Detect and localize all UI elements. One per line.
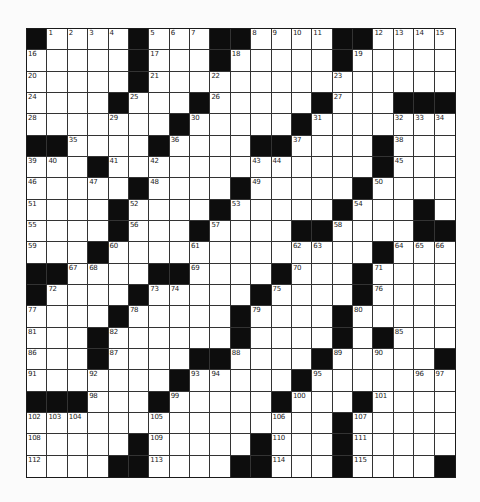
grid-cell[interactable] bbox=[190, 285, 210, 306]
grid-cell[interactable] bbox=[47, 114, 67, 135]
grid-cell[interactable] bbox=[149, 200, 169, 221]
grid-cell[interactable] bbox=[435, 306, 455, 327]
grid-cell[interactable] bbox=[129, 413, 149, 434]
grid-cell[interactable]: 65 bbox=[414, 242, 434, 263]
grid-cell[interactable]: 78 bbox=[129, 306, 149, 327]
grid-cell[interactable] bbox=[292, 157, 312, 178]
grid-cell[interactable]: 6 bbox=[170, 29, 190, 50]
grid-cell[interactable]: 32 bbox=[394, 114, 414, 135]
grid-cell[interactable] bbox=[272, 200, 292, 221]
grid-cell[interactable] bbox=[394, 200, 414, 221]
grid-cell[interactable] bbox=[272, 114, 292, 135]
grid-cell[interactable]: 16 bbox=[27, 50, 47, 71]
grid-cell[interactable] bbox=[272, 242, 292, 263]
grid-cell[interactable] bbox=[353, 370, 373, 391]
grid-cell[interactable] bbox=[170, 93, 190, 114]
grid-cell[interactable] bbox=[414, 349, 434, 370]
grid-cell[interactable]: 11 bbox=[312, 29, 332, 50]
grid-cell[interactable] bbox=[292, 93, 312, 114]
grid-cell[interactable] bbox=[312, 285, 332, 306]
grid-cell[interactable] bbox=[47, 456, 67, 477]
grid-cell[interactable]: 51 bbox=[27, 200, 47, 221]
grid-cell[interactable] bbox=[272, 370, 292, 391]
grid-cell[interactable] bbox=[353, 157, 373, 178]
grid-cell[interactable] bbox=[231, 392, 251, 413]
grid-cell[interactable] bbox=[149, 221, 169, 242]
grid-cell[interactable]: 74 bbox=[170, 285, 190, 306]
grid-cell[interactable] bbox=[190, 434, 210, 455]
grid-cell[interactable] bbox=[68, 434, 88, 455]
grid-cell[interactable] bbox=[231, 114, 251, 135]
grid-cell[interactable] bbox=[149, 328, 169, 349]
grid-cell[interactable]: 73 bbox=[149, 285, 169, 306]
grid-cell[interactable]: 18 bbox=[231, 50, 251, 71]
grid-cell[interactable] bbox=[231, 285, 251, 306]
grid-cell[interactable] bbox=[251, 72, 271, 93]
grid-cell[interactable] bbox=[373, 221, 393, 242]
grid-cell[interactable] bbox=[353, 72, 373, 93]
grid-cell[interactable] bbox=[373, 370, 393, 391]
grid-cell[interactable] bbox=[68, 157, 88, 178]
grid-cell[interactable]: 82 bbox=[109, 328, 129, 349]
grid-cell[interactable] bbox=[109, 264, 129, 285]
grid-cell[interactable] bbox=[312, 264, 332, 285]
grid-cell[interactable] bbox=[373, 306, 393, 327]
grid-cell[interactable] bbox=[68, 114, 88, 135]
grid-cell[interactable] bbox=[149, 114, 169, 135]
grid-cell[interactable] bbox=[414, 328, 434, 349]
grid-cell[interactable] bbox=[435, 328, 455, 349]
grid-cell[interactable] bbox=[394, 285, 414, 306]
grid-cell[interactable] bbox=[333, 264, 353, 285]
grid-cell[interactable] bbox=[353, 242, 373, 263]
grid-cell[interactable] bbox=[272, 93, 292, 114]
grid-cell[interactable] bbox=[394, 72, 414, 93]
grid-cell[interactable] bbox=[333, 114, 353, 135]
grid-cell[interactable] bbox=[88, 200, 108, 221]
grid-cell[interactable] bbox=[210, 157, 230, 178]
grid-cell[interactable] bbox=[251, 370, 271, 391]
grid-cell[interactable]: 31 bbox=[312, 114, 332, 135]
grid-cell[interactable] bbox=[190, 50, 210, 71]
grid-cell[interactable]: 69 bbox=[190, 264, 210, 285]
grid-cell[interactable] bbox=[272, 72, 292, 93]
grid-cell[interactable]: 108 bbox=[27, 434, 47, 455]
grid-cell[interactable] bbox=[129, 264, 149, 285]
grid-cell[interactable] bbox=[109, 72, 129, 93]
grid-cell[interactable]: 112 bbox=[27, 456, 47, 477]
grid-cell[interactable] bbox=[292, 285, 312, 306]
grid-cell[interactable] bbox=[210, 114, 230, 135]
grid-cell[interactable]: 92 bbox=[88, 370, 108, 391]
grid-cell[interactable] bbox=[373, 50, 393, 71]
grid-cell[interactable] bbox=[170, 328, 190, 349]
grid-cell[interactable]: 88 bbox=[231, 349, 251, 370]
grid-cell[interactable]: 47 bbox=[88, 178, 108, 199]
grid-cell[interactable] bbox=[210, 328, 230, 349]
grid-cell[interactable]: 52 bbox=[129, 200, 149, 221]
grid-cell[interactable] bbox=[414, 306, 434, 327]
grid-cell[interactable] bbox=[170, 456, 190, 477]
grid-cell[interactable]: 66 bbox=[435, 242, 455, 263]
grid-cell[interactable]: 23 bbox=[333, 72, 353, 93]
grid-cell[interactable]: 40 bbox=[47, 157, 67, 178]
grid-cell[interactable] bbox=[231, 221, 251, 242]
grid-cell[interactable] bbox=[210, 178, 230, 199]
grid-cell[interactable] bbox=[109, 370, 129, 391]
grid-cell[interactable] bbox=[47, 370, 67, 391]
grid-cell[interactable]: 100 bbox=[292, 392, 312, 413]
grid-cell[interactable] bbox=[109, 434, 129, 455]
grid-cell[interactable]: 110 bbox=[272, 434, 292, 455]
grid-cell[interactable] bbox=[373, 72, 393, 93]
grid-cell[interactable]: 105 bbox=[149, 413, 169, 434]
grid-cell[interactable] bbox=[394, 456, 414, 477]
grid-cell[interactable] bbox=[272, 306, 292, 327]
grid-cell[interactable] bbox=[190, 200, 210, 221]
grid-cell[interactable]: 9 bbox=[272, 29, 292, 50]
grid-cell[interactable] bbox=[312, 136, 332, 157]
grid-cell[interactable] bbox=[68, 178, 88, 199]
grid-cell[interactable] bbox=[210, 434, 230, 455]
grid-cell[interactable]: 44 bbox=[272, 157, 292, 178]
grid-cell[interactable] bbox=[231, 157, 251, 178]
grid-cell[interactable]: 58 bbox=[333, 221, 353, 242]
grid-cell[interactable]: 2 bbox=[68, 29, 88, 50]
grid-cell[interactable]: 28 bbox=[27, 114, 47, 135]
